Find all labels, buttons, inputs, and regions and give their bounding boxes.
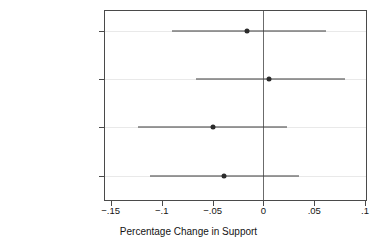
x-axis-ticklabel-neg-015: −.15 (101, 205, 120, 216)
x-axis-ticklabel-01: .1 (361, 205, 369, 216)
zero-reference-line (263, 11, 264, 200)
x-axis-ticklabel-005: .05 (308, 205, 321, 216)
x-axis-ticklabel-zero: 0 (261, 205, 266, 216)
x-axis-ticklabel-neg-005: −.05 (203, 205, 222, 216)
coefficient-plot-figure: Deaths Land Expropriation Economic Costs… (0, 0, 377, 248)
point-estimate-land-expropriation (267, 76, 272, 81)
x-axis-ticklabel-neg-01: −.1 (155, 205, 168, 216)
x-axis-title: Percentage Change in Support (0, 226, 377, 238)
point-estimate-deaths (245, 29, 250, 34)
point-estimate-environment (222, 173, 227, 178)
plot-area (104, 10, 367, 201)
point-estimate-economic-costs (210, 125, 215, 130)
